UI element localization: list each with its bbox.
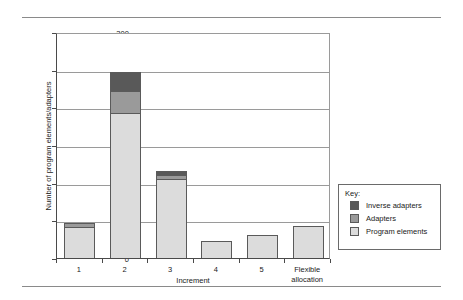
legend-item[interactable]: Adapters (350, 214, 435, 223)
legend-swatch-icon (350, 214, 359, 223)
x-axis-tick-label: 2 (102, 265, 148, 275)
legend-box: Key: Inverse adaptersAdaptersProgram ele… (338, 184, 441, 250)
x-axis-tick-label: 1 (56, 265, 102, 275)
top-rule-divider (22, 17, 441, 18)
bar-stack[interactable] (156, 34, 187, 258)
x-axis-tick-label: 3 (147, 265, 193, 275)
x-axis-title: Increment (56, 276, 330, 285)
legend-label: Adapters (366, 214, 396, 223)
x-axis-tick-mark (102, 259, 103, 263)
x-axis-tick-mark (147, 259, 148, 263)
bottom-rule-divider (22, 286, 441, 287)
bar-segment[interactable] (110, 113, 141, 258)
x-axis-tick-mark (193, 259, 194, 263)
bar-segment[interactable] (156, 179, 187, 258)
bar-stack[interactable] (201, 34, 232, 258)
legend-swatch-icon (350, 227, 359, 236)
x-axis-tick-mark (239, 259, 240, 263)
legend-item-group: Inverse adaptersAdaptersProgram elements (344, 201, 435, 236)
legend-label: Program elements (366, 227, 427, 236)
bar-segment[interactable] (110, 91, 141, 113)
bar-stack[interactable] (247, 34, 278, 258)
x-axis-tick-mark (330, 259, 331, 263)
bar-segment[interactable] (201, 241, 232, 258)
plot-area (56, 33, 330, 259)
x-axis-tick-mark (284, 259, 285, 263)
legend-swatch-icon (350, 201, 359, 210)
x-axis-tick-label: 5 (239, 265, 285, 275)
x-axis-tick-label: 4 (193, 265, 239, 275)
legend-item[interactable]: Inverse adapters (350, 201, 435, 210)
bar-stack[interactable] (110, 34, 141, 258)
bar-segment[interactable] (247, 235, 278, 258)
bar-segment[interactable] (293, 226, 324, 258)
legend-title: Key: (345, 189, 435, 198)
bar-stack[interactable] (293, 34, 324, 258)
bar-segment[interactable] (110, 72, 141, 91)
figure-container: Number of program elements/adapters 0501… (0, 0, 463, 300)
legend-label: Inverse adapters (366, 201, 422, 210)
bar-stack[interactable] (64, 34, 95, 258)
x-axis-tick-mark (56, 259, 57, 263)
legend-item[interactable]: Program elements (350, 227, 435, 236)
bar-segment[interactable] (64, 227, 95, 258)
y-axis-label-container: Number of program elements/adapters (20, 33, 34, 259)
bar-group (57, 34, 329, 258)
